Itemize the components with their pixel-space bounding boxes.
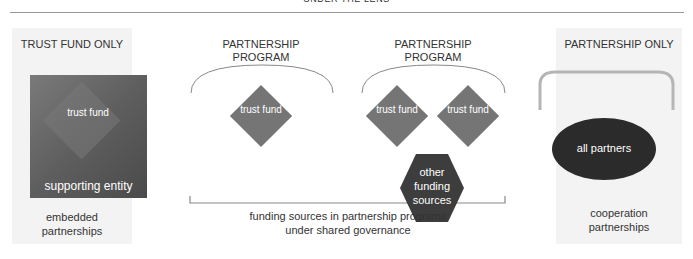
- partnership-only-arc: [540, 72, 673, 110]
- other-funding-sources-label: other funding sources: [406, 165, 458, 207]
- program-1-trust-fund-label: trust fund: [236, 104, 286, 116]
- program-2-title-line1: PARTNERSHIP: [368, 38, 498, 51]
- program-2-title-line2: PROGRAM: [368, 51, 498, 64]
- program-2-arc: [362, 65, 505, 93]
- shared-governance-caption-line1: funding sources in partnership programs: [190, 210, 506, 223]
- program-1-title-line2: PROGRAM: [196, 51, 326, 64]
- program-1-title-line1: PARTNERSHIP: [196, 38, 326, 51]
- shared-governance-caption-line2: under shared governance: [190, 224, 506, 237]
- all-partners-label: all partners: [552, 142, 656, 154]
- program-2-trust-fund-label-left: trust fund: [372, 104, 422, 116]
- program-2-trust-fund-label-right: trust fund: [443, 104, 493, 116]
